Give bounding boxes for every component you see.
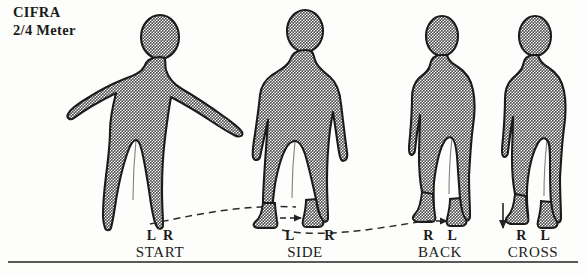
figure-back (409, 16, 475, 226)
figure-back-leg-seam (449, 138, 452, 194)
foot-label-left-back: R (423, 228, 447, 243)
foot-label-right-cross: L (540, 228, 563, 243)
step-name-start: START (120, 244, 200, 261)
figure-side-leg-seam (292, 141, 295, 198)
figure-side-body (253, 50, 348, 223)
figure-side-head (287, 10, 323, 52)
figure-cross-head (519, 16, 551, 56)
figure-back-body (409, 55, 475, 220)
foot-labels-back: RL (400, 228, 480, 244)
figure-cross-leg-seam (544, 140, 547, 196)
figure-start-leg-seam (133, 140, 136, 200)
figure-back-left-foot (413, 192, 435, 222)
foot-labels-start: LR (120, 228, 200, 244)
foot-label-right-start: R (163, 228, 180, 243)
figure-cross (502, 16, 566, 228)
figure-back-head (426, 16, 458, 56)
step-name-side: SIDE (255, 244, 355, 261)
figure-side (253, 10, 348, 228)
diagram-canvas: CIFRA 2/4 Meter (0, 0, 586, 276)
figure-start (67, 15, 242, 230)
foot-labels-cross: RL (493, 228, 573, 244)
foot-labels-side: LR (255, 228, 355, 244)
figure-start-head (141, 15, 179, 59)
figure-start-body (67, 57, 242, 230)
step-name-cross: CROSS (493, 244, 573, 261)
figure-cross-right-foot (506, 194, 528, 224)
step-name-back: BACK (400, 244, 480, 261)
foot-label-left-cross: R (516, 228, 540, 243)
foot-label-right-side: R (324, 228, 364, 243)
foot-label-right-back: L (447, 228, 470, 243)
foot-label-left-start: L (147, 228, 163, 243)
foot-label-left-side: L (285, 228, 324, 243)
figure-cross-body (502, 55, 566, 222)
